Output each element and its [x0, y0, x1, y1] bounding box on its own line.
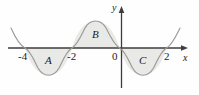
region-label-b: B: [92, 29, 99, 40]
x-axis-label: x: [183, 53, 187, 63]
region-label-a: A: [45, 55, 52, 66]
region-label-c: C: [139, 55, 146, 66]
origin-label-zero: 0: [112, 51, 118, 62]
tick-label-minus-4: -4: [18, 51, 27, 62]
x-axis-arrowhead: [181, 45, 188, 51]
y-axis-arrowhead: [119, 6, 125, 13]
tick-label-minus-2: -2: [67, 51, 76, 62]
y-axis-label: y: [112, 3, 116, 13]
graph-canvas: [0, 0, 199, 95]
function-graph-figure: y x -4 -2 0 2 A B C: [0, 0, 199, 95]
tick-label-2: 2: [164, 51, 170, 62]
